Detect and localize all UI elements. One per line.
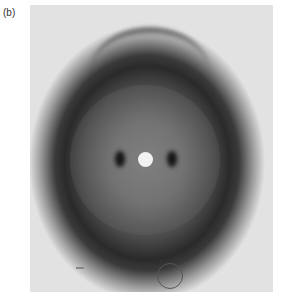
diffraction-image [30, 5, 273, 292]
left-reflection-spot [115, 151, 125, 167]
bottom-left-mark [76, 267, 84, 269]
bottom-ring-artifact [157, 263, 183, 289]
right-reflection-spot [167, 151, 177, 167]
beam-stop [138, 152, 153, 167]
panel-label: (b) [3, 7, 15, 18]
